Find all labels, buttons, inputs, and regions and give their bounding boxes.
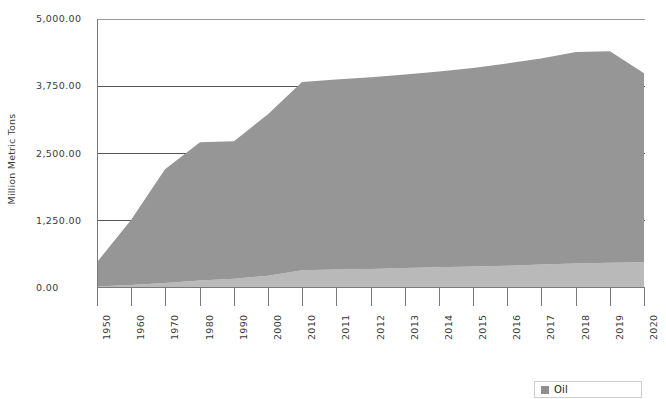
x-axis-tick-label: 1960	[135, 315, 146, 340]
x-axis-tick-labels: 1950196019701980199020002010201120122013…	[97, 288, 645, 348]
x-axis-tick-label: 2011	[340, 315, 351, 340]
x-axis-tick-label: 2000	[272, 315, 283, 340]
x-axis-tick-label: 2018	[580, 315, 591, 340]
x-axis-tick-label: 2014	[443, 315, 454, 340]
legend[interactable]: Oil	[534, 381, 642, 398]
x-axis-tick-label: 2019	[614, 315, 625, 340]
x-axis-tick-stem	[439, 288, 440, 306]
x-axis-tick-label: 2017	[545, 315, 556, 340]
y-axis-tick-label: 0.00	[4, 282, 92, 293]
x-axis-tick-label: 2013	[409, 315, 420, 340]
y-axis-tick-label: 1,250.00	[4, 215, 92, 226]
x-axis-tick-stem	[473, 288, 474, 306]
x-axis-tick-stem	[131, 288, 132, 306]
x-axis-tick-label: 1970	[169, 315, 180, 340]
x-axis-tick-stem	[507, 288, 508, 306]
x-axis-tick-stem	[644, 288, 645, 306]
x-axis-tick-label: 2010	[306, 315, 317, 340]
x-axis-tick-label: 2012	[375, 315, 386, 340]
x-axis-tick-label: 1950	[101, 315, 112, 340]
x-axis-tick-label: 1980	[204, 315, 215, 340]
y-axis-tick-label: 5,000.00	[4, 13, 92, 24]
x-axis-tick-stem	[234, 288, 235, 306]
x-axis-tick-label: 2020	[648, 315, 659, 340]
x-axis-tick-stem	[610, 288, 611, 306]
y-axis-tick-labels: 5,000.00 3,750.00 2,500.00 1,250.00 0.00	[0, 0, 92, 300]
x-axis-tick-stem	[200, 288, 201, 306]
x-axis-tick-stem	[576, 288, 577, 306]
x-axis-tick-stem	[541, 288, 542, 306]
y-axis-tick-label: 3,750.00	[4, 80, 92, 91]
x-axis-tick-label: 2015	[477, 315, 488, 340]
area-series-group	[97, 51, 644, 288]
y-axis-tick-label: 2,500.00	[4, 148, 92, 159]
plot-svg	[97, 19, 645, 288]
x-axis-tick-stem	[97, 288, 98, 306]
x-axis-tick-label: 2016	[511, 315, 522, 340]
x-axis-tick-stem	[165, 288, 166, 306]
x-axis-tick-stem	[268, 288, 269, 306]
legend-item-label: Oil	[554, 384, 568, 395]
x-axis-tick-stem	[336, 288, 337, 306]
x-axis-tick-stem	[302, 288, 303, 306]
x-axis-tick-label: 1990	[238, 315, 249, 340]
x-axis-tick-stem	[371, 288, 372, 306]
x-axis-tick-stem	[405, 288, 406, 306]
legend-swatch-icon	[541, 386, 549, 394]
plot-area	[97, 19, 645, 288]
area-chart: Million Metric Tons 5,000.00 3,750.00 2,…	[0, 0, 666, 399]
